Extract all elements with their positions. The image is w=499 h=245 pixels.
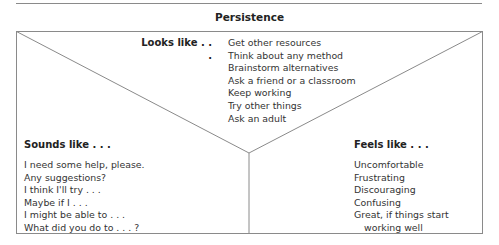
list-item: Any suggestions? [24, 172, 145, 185]
list-item: Uncomfortable [354, 159, 449, 172]
looks-like-heading: Looks like . . . [140, 37, 212, 62]
list-item: Think about any method [228, 50, 356, 63]
sounds-like-heading: Sounds like . . . [24, 139, 111, 152]
list-item: Discouraging [354, 184, 449, 197]
list-item: I think I'll try . . . [24, 184, 145, 197]
list-item: Try other things [228, 100, 356, 113]
list-item: I might be able to . . . [24, 209, 145, 222]
list-item: Ask an adult [228, 113, 356, 126]
list-item: Confusing [354, 197, 449, 210]
sounds-like-list: I need some help, please. Any suggestion… [24, 159, 145, 235]
left-diagonal [17, 32, 250, 154]
list-item: Ask a friend or a classroom [228, 75, 356, 88]
list-item: Great, if things start [354, 209, 449, 222]
feels-like-list: Uncomfortable Frustrating Discouraging C… [354, 159, 449, 235]
list-item: Keep working [228, 87, 356, 100]
list-item: What did you do to . . . ? [24, 222, 145, 235]
list-item: Get other resources [228, 37, 356, 50]
feels-like-heading: Feels like . . . [354, 139, 429, 152]
list-item: Maybe if I . . . [24, 197, 145, 210]
list-item: Frustrating [354, 172, 449, 185]
list-item: working well [354, 222, 449, 235]
list-item: Brainstorm alternatives [228, 62, 356, 75]
looks-like-list: Get other resources Think about any meth… [228, 37, 356, 125]
list-item: I need some help, please. [24, 159, 145, 172]
